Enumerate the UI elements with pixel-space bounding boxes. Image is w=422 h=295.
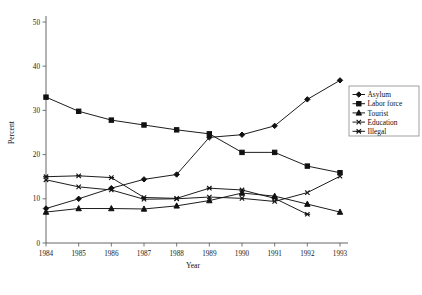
y-axis-tick-label: 20	[33, 151, 41, 159]
series-marker-labor-force	[76, 109, 80, 113]
x-axis-tick-label: 1985	[71, 250, 86, 258]
x-axis-tick-label: 1989	[202, 250, 217, 258]
chart-container: 0102030405019841985198619871988198919901…	[0, 0, 422, 295]
series-marker-labor-force	[272, 150, 276, 154]
series-marker-tourist	[141, 206, 146, 211]
x-axis-tick-label: 1984	[39, 250, 54, 258]
legend-marker-labor-force	[357, 102, 361, 106]
x-axis-tick-label: 1992	[300, 250, 315, 258]
series-marker-tourist	[76, 206, 81, 211]
x-axis-tick-label: 1986	[104, 250, 119, 258]
series-marker-asylum	[141, 177, 146, 182]
legend-label-illegal: Illegal	[368, 127, 387, 136]
series-marker-labor-force	[174, 128, 178, 132]
series-marker-labor-force	[240, 150, 244, 154]
series-marker-asylum	[239, 132, 244, 137]
y-axis-tick-label: 30	[33, 107, 41, 115]
series-marker-labor-force	[207, 132, 211, 136]
y-axis-title: Percent	[7, 120, 16, 144]
series-line-asylum	[46, 80, 340, 208]
x-axis-title: Year	[186, 261, 200, 270]
y-axis-tick-label: 0	[36, 240, 40, 248]
y-axis-tick-label: 10	[33, 195, 41, 203]
series-marker-tourist	[174, 203, 179, 208]
series-marker-labor-force	[142, 123, 146, 127]
series-marker-labor-force	[109, 118, 113, 122]
series-marker-tourist	[109, 206, 114, 211]
legend-label-education: Education	[368, 118, 398, 127]
x-axis-tick-label: 1990	[235, 250, 250, 258]
series-marker-labor-force	[44, 95, 48, 99]
legend-label-labor-force: Labor force	[368, 99, 403, 108]
x-axis-tick-label: 1987	[137, 250, 152, 258]
series-marker-asylum	[337, 78, 342, 83]
x-axis-tick-label: 1993	[333, 250, 348, 258]
series-marker-asylum	[76, 196, 81, 201]
x-axis-tick-label: 1988	[169, 250, 184, 258]
legend-label-tourist: Tourist	[368, 109, 390, 118]
series-line-education	[46, 176, 340, 201]
series-marker-labor-force	[305, 164, 309, 168]
y-axis-tick-label: 50	[33, 19, 41, 27]
y-axis-tick-label: 40	[33, 63, 41, 71]
line-chart: 0102030405019841985198619871988198919901…	[0, 0, 422, 295]
legend-label-asylum: Asylum	[368, 90, 392, 99]
x-axis-tick-label: 1991	[267, 250, 282, 258]
series-marker-tourist	[305, 201, 310, 206]
series-marker-tourist	[337, 209, 342, 214]
